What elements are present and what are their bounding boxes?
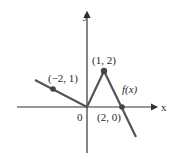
point-label-2-0: (2, 0) (97, 111, 121, 124)
function-graph: y x 0 (−2, 1) (1, 2) (2, 0) f(x) (0, 0, 176, 160)
point-2-0 (119, 104, 125, 110)
function-label: f(x) (122, 83, 138, 96)
x-axis-label: x (161, 101, 167, 113)
point-label-1-2: (1, 2) (92, 54, 116, 67)
point-neg2-1 (50, 86, 56, 92)
point-label-neg2-1: (−2, 1) (48, 72, 78, 85)
y-axis-label: y (83, 9, 89, 21)
origin-label: 0 (77, 111, 83, 123)
point-1-2 (101, 68, 107, 74)
